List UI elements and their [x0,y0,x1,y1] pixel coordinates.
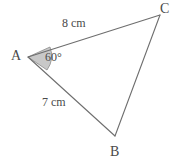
vertex-label-a: A [11,49,21,63]
triangle-svg [0,0,177,163]
side-bc-line [115,15,160,136]
triangle-diagram: A B C 8 cm 7 cm 60° [0,0,177,163]
side-length-label-ac: 8 cm [62,17,86,29]
angle-measure-label-a: 60° [45,51,62,63]
vertex-label-b: B [110,145,119,159]
vertex-label-c: C [160,2,169,16]
side-length-label-ab: 7 cm [42,96,66,108]
